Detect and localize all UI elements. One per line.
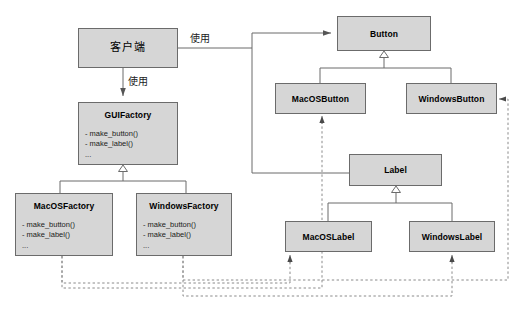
edge-label-uses-factory: 使用 <box>128 73 148 88</box>
class-box-windowsbutton[interactable]: WindowsButton <box>406 83 497 114</box>
member-item: - make_button() <box>85 129 177 140</box>
class-box-macosfactory[interactable]: MacOSFactory - make_button() - make_labe… <box>15 193 113 256</box>
class-box-windowsfactory[interactable]: WindowsFactory - make_button() - make_la… <box>136 193 232 256</box>
member-item: ... <box>143 241 231 252</box>
class-title-windowsbutton: WindowsButton <box>407 84 496 104</box>
uml-diagram-canvas: 客户端 GUIFactory - make_button() - make_la… <box>0 0 523 315</box>
class-box-guifactory[interactable]: GUIFactory - make_button() - make_label(… <box>78 102 178 165</box>
member-item: ... <box>22 241 112 252</box>
edge-macosfactory-creates-macoslabel <box>62 255 290 283</box>
class-title-macosbutton: MacOSButton <box>276 84 365 104</box>
class-box-windowslabel[interactable]: WindowsLabel <box>409 221 495 252</box>
edge-windowsfactory-creates-windowslabel <box>183 255 452 296</box>
class-members-macosfactory: - make_button() - make_label() ... <box>16 211 112 253</box>
class-title-client: 客户端 <box>79 29 177 53</box>
class-box-client[interactable]: 客户端 <box>78 28 178 68</box>
edge-generalization-button <box>320 51 451 83</box>
edge-label-uses-products: 使用 <box>190 30 210 45</box>
member-item: - make_button() <box>143 220 231 231</box>
class-title-button: Button <box>338 17 430 39</box>
member-item: - make_label() <box>22 230 112 241</box>
member-item: - make_label() <box>143 230 231 241</box>
class-box-macosbutton[interactable]: MacOSButton <box>275 83 366 114</box>
class-title-label: Label <box>350 155 441 175</box>
class-title-guifactory: GUIFactory <box>79 103 177 120</box>
member-item: - make_label() <box>85 139 177 150</box>
class-title-windowsfactory: WindowsFactory <box>137 194 231 211</box>
class-members-guifactory: - make_button() - make_label() ... <box>79 120 177 162</box>
class-box-button[interactable]: Button <box>337 16 431 51</box>
class-title-windowslabel: WindowsLabel <box>410 222 494 242</box>
member-item: - make_button() <box>22 220 112 231</box>
member-item: ... <box>85 150 177 161</box>
class-members-windowsfactory: - make_button() - make_label() ... <box>137 211 231 253</box>
class-title-macoslabel: MacOSLabel <box>286 222 371 242</box>
edge-generalization-label <box>328 186 452 221</box>
generalization-triangle-guifactory <box>119 165 128 172</box>
class-title-macosfactory: MacOSFactory <box>16 194 112 211</box>
generalization-triangle-label <box>392 186 401 193</box>
edge-generalization-guifactory <box>60 165 186 193</box>
generalization-triangle-button <box>380 51 389 58</box>
class-box-macoslabel[interactable]: MacOSLabel <box>285 221 372 252</box>
class-box-label[interactable]: Label <box>349 154 442 186</box>
